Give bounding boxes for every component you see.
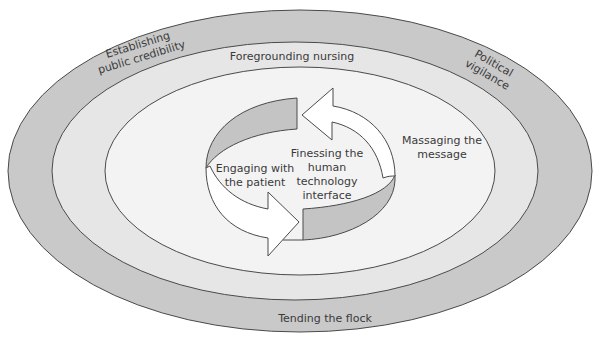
label-line: the patient — [225, 176, 286, 189]
label-foregrounding-nursing: Foregrounding nursing — [230, 50, 354, 63]
inner-layer-ellipse — [105, 67, 495, 275]
label-line: technology — [296, 175, 358, 188]
label-line: human — [308, 161, 346, 174]
label-engaging-with-the-patient: Engaging with the patient — [216, 162, 295, 189]
label-line: Massaging the — [402, 134, 482, 147]
label-line: interface — [302, 189, 351, 202]
label-line: Finessing the — [291, 147, 364, 160]
label-tending-the-flock: Tending the flock — [277, 312, 372, 325]
nested-ellipse-diagram: Establishing public credibility Politica… — [0, 0, 600, 341]
label-line: message — [417, 148, 467, 161]
label-line: Engaging with — [216, 162, 295, 175]
